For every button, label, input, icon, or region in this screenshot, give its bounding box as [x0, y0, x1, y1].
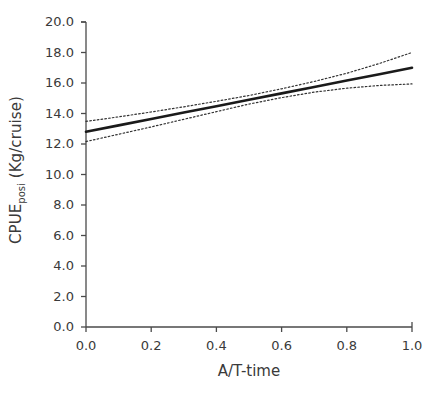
plot-area: [0, 0, 438, 400]
series-lower-confidence-limit: [86, 84, 412, 142]
chart-figure: CPUEposi (Kg/cruise) 0.02.04.06.08.010.0…: [0, 0, 438, 400]
data-series-layer: [86, 53, 412, 142]
series-fitted: [86, 68, 412, 132]
